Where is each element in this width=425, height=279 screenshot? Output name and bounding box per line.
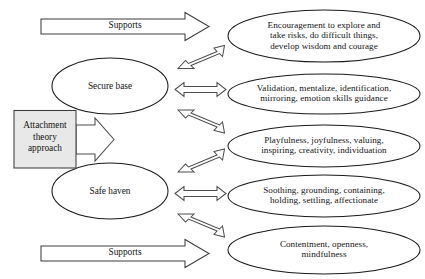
safe-haven-to-soothing-arrow: [175, 187, 226, 201]
playfulness-ellipse-shape: [228, 125, 420, 167]
validation-ellipse-shape: [228, 74, 420, 114]
contentment-ellipse-shape: [228, 226, 420, 274]
attachment-theory-approach-box-shape: [14, 111, 76, 169]
supports-arrow-bottom: [41, 240, 209, 268]
safe-haven-to-contentment-arrow: [178, 214, 225, 237]
soothing-ellipse-shape: [228, 175, 420, 217]
supports-arrow-top: [41, 13, 209, 41]
secure-base-to-playfulness-arrow: [178, 110, 225, 133]
secure-base-to-encouragement-arrow: [178, 46, 225, 69]
secure-base-to-validation-arrow: [175, 83, 226, 97]
encouragement-ellipse-shape: [228, 10, 420, 62]
safe-haven-to-playfulness-arrow: [178, 149, 225, 172]
safe-haven-ellipse-shape: [52, 163, 168, 219]
attachment-theory-diagram: Supports Supports Attachment theory appr…: [0, 0, 425, 279]
secure-base-ellipse-shape: [52, 58, 168, 114]
attachment-theory-arrow: [76, 118, 114, 161]
diagram-canvas: [0, 0, 425, 279]
